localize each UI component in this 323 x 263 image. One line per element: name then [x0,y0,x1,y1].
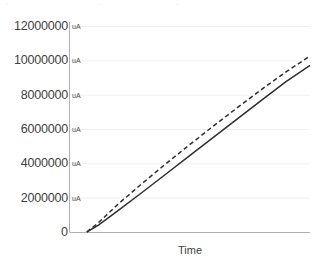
y-axis-tick-label: 6000000 [21,123,68,136]
y-axis-tick-unit: uA [72,92,81,99]
x-axis-title: Time [70,245,310,256]
chart-container: · ·· · 02000000uA4000000uA6000000uA80000… [0,0,323,263]
gridlines [70,27,310,199]
y-axis-tick-unit: uA [72,57,81,64]
y-axis-tick-label: 4000000 [21,157,68,170]
y-axis-tick-label: 0 [61,226,68,239]
y-axis-tick-label: 10000000 [14,54,68,67]
y-axis-tick-unit: uA [72,126,81,133]
y-axis-tick-label: 2000000 [21,192,68,205]
series-line-dashed [87,56,310,232]
series-line-solid [87,65,310,232]
y-axis-tick-unit: uA [72,23,81,30]
y-axis-tick-unit: uA [72,195,81,202]
y-axis-tick-unit: uA [72,160,81,167]
y-axis-tick-label: 8000000 [21,89,68,102]
y-axis-tick-label: 12000000 [14,20,68,33]
